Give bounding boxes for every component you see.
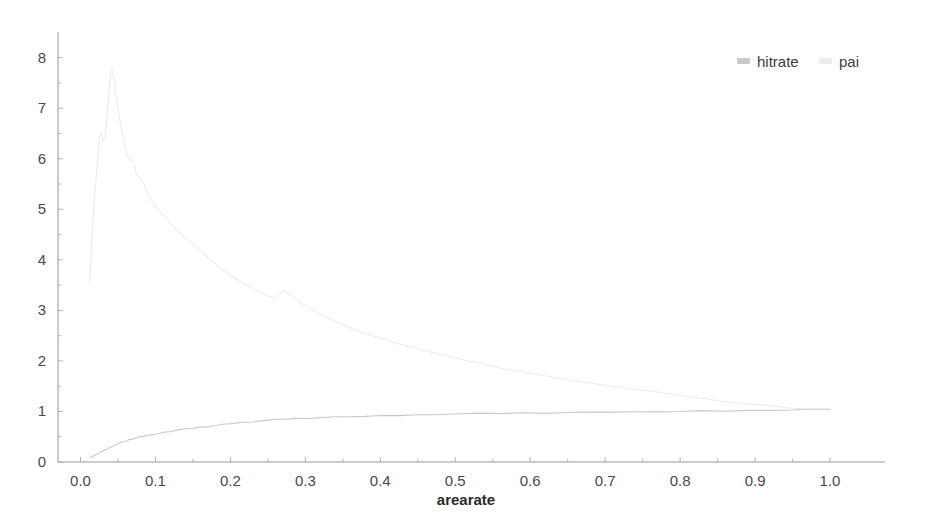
y-tick-label: 5	[38, 200, 46, 217]
x-tick-label: 0.4	[370, 472, 391, 489]
line-chart-plot: 012345678 0.00.10.20.30.40.50.60.70.80.9…	[0, 0, 933, 531]
chart-container: 012345678 0.00.10.20.30.40.50.60.70.80.9…	[0, 0, 933, 531]
series-line-hitrate	[89, 409, 830, 457]
chart-legend: hitratepai	[737, 53, 859, 70]
x-tick-label: 0.2	[220, 472, 241, 489]
data-series	[89, 70, 830, 458]
x-tick-label: 0.6	[520, 472, 541, 489]
y-tick-label: 7	[38, 99, 46, 116]
y-axis-ticks: 012345678	[38, 49, 63, 470]
y-tick-label: 0	[38, 453, 46, 470]
legend-swatch-hitrate	[737, 58, 750, 64]
y-tick-label: 8	[38, 49, 46, 66]
series-line-pai	[89, 70, 830, 409]
x-tick-label: 1.0	[820, 472, 841, 489]
x-tick-label: 0.1	[145, 472, 166, 489]
x-tick-label: 0.8	[670, 472, 691, 489]
y-tick-label: 2	[38, 352, 46, 369]
axis-lines	[58, 32, 885, 462]
y-tick-label: 3	[38, 301, 46, 318]
y-tick-label: 1	[38, 402, 46, 419]
x-tick-label: 0.5	[445, 472, 466, 489]
x-tick-label: 0.7	[595, 472, 616, 489]
x-tick-label: 0.3	[295, 472, 316, 489]
y-tick-label: 4	[38, 251, 46, 268]
legend-swatch-pai	[819, 58, 832, 64]
x-tick-label: 0.0	[70, 472, 91, 489]
y-tick-label: 6	[38, 150, 46, 167]
x-axis-title: arearate	[437, 491, 495, 508]
x-tick-label: 0.9	[745, 472, 766, 489]
legend-label-pai: pai	[839, 53, 859, 70]
legend-label-hitrate: hitrate	[757, 53, 799, 70]
